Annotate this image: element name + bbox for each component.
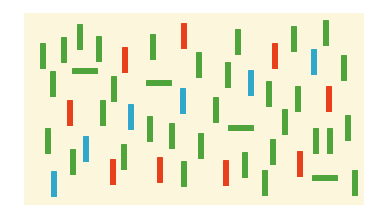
blue-vertical-bar[interactable] — [51, 171, 57, 197]
green-horizontal-bar[interactable] — [146, 80, 172, 86]
green-vertical-bar[interactable] — [50, 71, 56, 97]
green-vertical-bar[interactable] — [198, 133, 204, 159]
red-vertical-bar[interactable] — [181, 23, 187, 49]
green-vertical-bar[interactable] — [181, 161, 187, 187]
blue-vertical-bar[interactable] — [180, 88, 186, 114]
red-vertical-bar[interactable] — [157, 157, 163, 183]
green-vertical-bar[interactable] — [313, 128, 319, 154]
green-vertical-bar[interactable] — [345, 115, 351, 141]
green-vertical-bar[interactable] — [327, 128, 333, 154]
green-vertical-bar[interactable] — [291, 26, 297, 52]
green-vertical-bar[interactable] — [323, 20, 329, 46]
blue-vertical-bar[interactable] — [83, 136, 89, 162]
green-vertical-bar[interactable] — [169, 123, 175, 149]
red-vertical-bar[interactable] — [272, 43, 278, 69]
search-board — [24, 13, 364, 205]
green-vertical-bar[interactable] — [77, 24, 83, 50]
red-vertical-bar[interactable] — [67, 100, 73, 126]
green-vertical-bar[interactable] — [282, 109, 288, 135]
green-vertical-bar[interactable] — [70, 149, 76, 175]
green-vertical-bar[interactable] — [295, 86, 301, 112]
green-vertical-bar[interactable] — [100, 100, 106, 126]
green-horizontal-bar[interactable] — [72, 68, 98, 74]
green-vertical-bar[interactable] — [147, 116, 153, 142]
blue-vertical-bar[interactable] — [128, 104, 134, 130]
red-vertical-bar[interactable] — [326, 86, 332, 112]
green-vertical-bar[interactable] — [196, 52, 202, 78]
green-vertical-bar[interactable] — [213, 97, 219, 123]
blue-vertical-bar[interactable] — [248, 70, 254, 96]
green-horizontal-bar[interactable] — [312, 175, 338, 181]
green-vertical-bar[interactable] — [242, 152, 248, 178]
green-vertical-bar[interactable] — [96, 36, 102, 62]
blue-vertical-bar[interactable] — [311, 49, 317, 75]
red-vertical-bar[interactable] — [122, 47, 128, 73]
green-vertical-bar[interactable] — [270, 139, 276, 165]
green-vertical-bar[interactable] — [121, 144, 127, 170]
green-vertical-bar[interactable] — [235, 29, 241, 55]
green-vertical-bar[interactable] — [352, 170, 358, 196]
green-vertical-bar[interactable] — [150, 34, 156, 60]
green-vertical-bar[interactable] — [262, 170, 268, 196]
green-vertical-bar[interactable] — [266, 81, 272, 107]
green-vertical-bar[interactable] — [61, 37, 67, 63]
green-vertical-bar[interactable] — [341, 55, 347, 81]
red-vertical-bar[interactable] — [223, 160, 229, 186]
green-horizontal-bar[interactable] — [228, 125, 254, 131]
red-vertical-bar[interactable] — [110, 159, 116, 185]
green-vertical-bar[interactable] — [45, 128, 51, 154]
green-vertical-bar[interactable] — [225, 62, 231, 88]
green-vertical-bar[interactable] — [111, 76, 117, 102]
green-vertical-bar[interactable] — [40, 43, 46, 69]
red-vertical-bar[interactable] — [297, 151, 303, 177]
